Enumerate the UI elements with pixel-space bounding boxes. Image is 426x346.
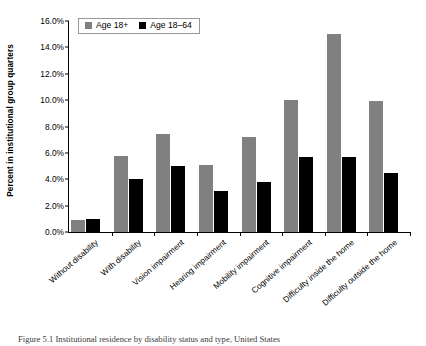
- bar-age-18-plus: [71, 220, 85, 232]
- y-axis-tick-label: 16.0%: [18, 16, 69, 26]
- bar-group: [325, 21, 368, 232]
- plot-area: 0.0%2.0%4.0%6.0%8.0%10.0%12.0%14.0%16.0%: [68, 21, 410, 233]
- bar-group: [367, 21, 410, 232]
- y-axis-title-text: Percent in institutional group quarters: [6, 44, 15, 197]
- bar-group: [240, 21, 283, 232]
- bar-age-18-64: [129, 179, 143, 232]
- y-axis-tick-label: 2.0%: [18, 201, 69, 211]
- x-axis-tick-mark: [240, 232, 241, 236]
- legend-label-age-18-plus: Age 18+: [96, 21, 128, 30]
- x-axis-tick-label: Difficulty inside the home: [282, 238, 356, 304]
- x-axis-tick-label: Without disability: [48, 238, 100, 285]
- y-axis-tick-label: 12.0%: [18, 69, 69, 79]
- bar-group: [69, 21, 112, 232]
- legend-swatch-icon-age-18-plus: [85, 22, 92, 29]
- x-axis-labels: Without disabilityWith disabilityVision …: [68, 238, 409, 334]
- x-axis-tick-mark: [325, 232, 326, 236]
- legend-item-age-18-64: Age 18–64: [139, 21, 192, 30]
- bar-age-18-64: [257, 182, 271, 232]
- legend-item-age-18-plus: Age 18+: [85, 21, 128, 30]
- y-axis-tick-label: 0.0%: [18, 227, 69, 237]
- bar-group: [112, 21, 155, 232]
- bar-group: [154, 21, 197, 232]
- y-axis-tick-label: 4.0%: [18, 174, 69, 184]
- legend-swatch-icon-age-18-64: [139, 22, 146, 29]
- figure-container: Percent in institutional group quarters …: [0, 0, 426, 346]
- x-axis-tick-mark: [197, 232, 198, 236]
- legend-label-age-18-64: Age 18–64: [150, 21, 192, 30]
- bar-age-18-plus: [327, 34, 341, 232]
- figure-caption: Figure 5.1 Institutional residence by di…: [18, 334, 418, 344]
- bar-group: [282, 21, 325, 232]
- x-axis-tick-mark: [410, 232, 411, 236]
- bar-age-18-plus: [114, 156, 128, 232]
- y-axis-tick-label: 10.0%: [18, 95, 69, 105]
- x-axis-tick-mark: [112, 232, 113, 236]
- y-axis-title: Percent in institutional group quarters: [0, 0, 20, 240]
- bar-age-18-64: [86, 219, 100, 232]
- bar-age-18-64: [299, 157, 313, 232]
- bar-age-18-plus: [156, 134, 170, 232]
- x-axis-tick-label: With disability: [99, 238, 143, 278]
- bar-age-18-64: [342, 157, 356, 232]
- y-axis-tick-label: 14.0%: [18, 42, 69, 52]
- bar-age-18-plus: [199, 165, 213, 232]
- y-axis-tick-label: 8.0%: [18, 122, 69, 132]
- bar-age-18-plus: [242, 137, 256, 232]
- x-axis-tick-label: Difficulty outside the home: [320, 238, 398, 308]
- x-axis-tick-mark: [282, 232, 283, 236]
- bar-age-18-plus: [284, 100, 298, 232]
- bar-age-18-64: [384, 173, 398, 232]
- bar-age-18-64: [171, 166, 185, 232]
- bar-age-18-plus: [369, 101, 383, 232]
- bar-group: [197, 21, 240, 232]
- x-axis-tick-mark: [154, 232, 155, 236]
- x-axis-tick-mark: [367, 232, 368, 236]
- y-axis-tick-label: 6.0%: [18, 148, 69, 158]
- bar-age-18-64: [214, 191, 228, 232]
- chart-legend: Age 18+ Age 18–64: [78, 18, 200, 34]
